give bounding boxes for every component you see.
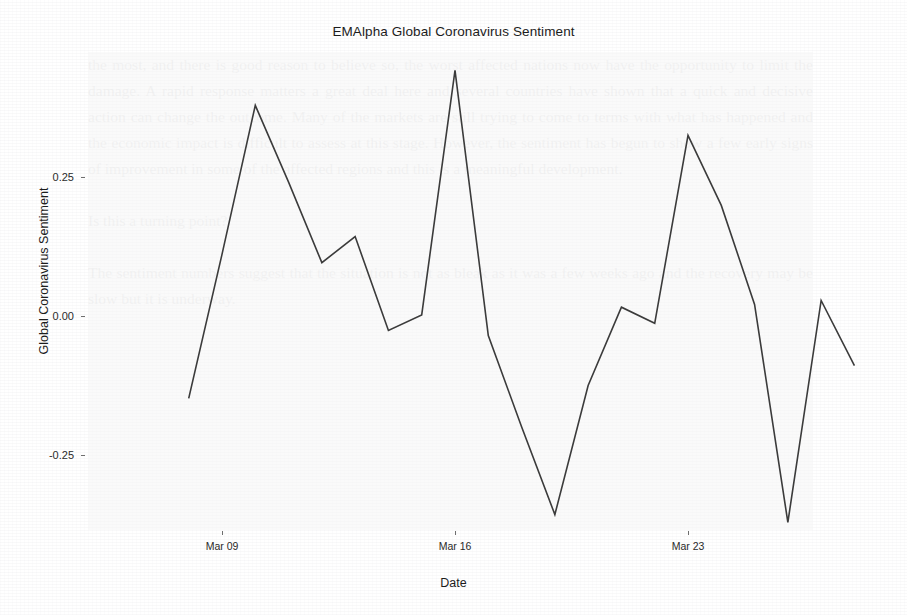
sentiment-series-line <box>189 70 855 522</box>
series-line-svg <box>0 0 907 615</box>
line-chart: EMAlpha Global Coronavirus Sentiment Glo… <box>0 0 907 615</box>
